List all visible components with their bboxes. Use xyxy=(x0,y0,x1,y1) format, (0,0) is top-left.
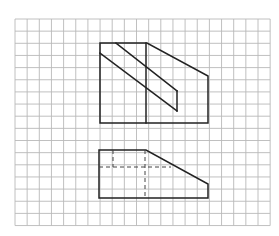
top-view xyxy=(99,150,208,198)
top-view-outline xyxy=(99,150,208,198)
projection-diagram xyxy=(0,0,279,236)
